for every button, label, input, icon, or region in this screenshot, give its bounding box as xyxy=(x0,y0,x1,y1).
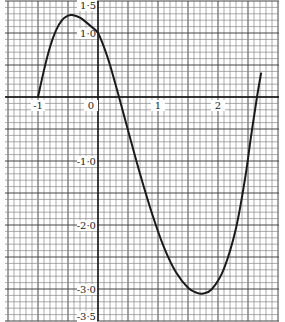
y-tick-label: 1·5 xyxy=(80,0,96,11)
function-plot: -1012 1·51·0-1·0-2·0-3·0-3·5 xyxy=(0,0,285,322)
y-tick-label: -3·5 xyxy=(77,311,96,322)
y-tick-label: -3·0 xyxy=(77,284,96,295)
minor-grid xyxy=(5,1,279,321)
x-tick-label: 2 xyxy=(215,100,221,111)
x-tick-label: 0 xyxy=(88,100,94,111)
y-tick-label: -2·0 xyxy=(77,220,96,231)
x-tick-label: 1 xyxy=(155,100,161,111)
y-tick-label: -1·0 xyxy=(77,156,96,167)
x-tick-label: -1 xyxy=(33,100,43,111)
